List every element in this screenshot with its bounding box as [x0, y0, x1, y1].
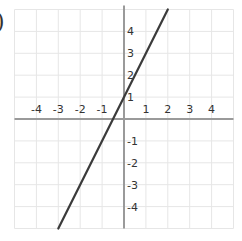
x-tick-label: -2 [75, 103, 86, 116]
x-tick-label: 3 [186, 103, 193, 116]
x-tick-label: 4 [208, 103, 215, 116]
coordinate-plane: -4-3-2-11234 4321-1-2-3-4 [0, 0, 242, 241]
y-tick-label: -2 [127, 157, 138, 170]
y-tick-label: 4 [127, 25, 134, 38]
y-tick-label: -1 [127, 135, 138, 148]
axes [15, 6, 234, 229]
x-tick-label: -1 [97, 103, 108, 116]
x-tick-label: -3 [53, 103, 64, 116]
x-tick-label: 2 [164, 103, 171, 116]
y-tick-label: 1 [127, 91, 134, 104]
x-tick-label: 1 [142, 103, 149, 116]
y-tick-label: -4 [127, 201, 138, 214]
y-tick-label: 3 [127, 47, 134, 60]
x-tick-label: -4 [31, 103, 42, 116]
y-tick-label: -3 [127, 179, 138, 192]
